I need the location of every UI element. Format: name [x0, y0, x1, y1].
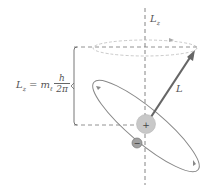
angular-momentum-vector [149, 56, 191, 120]
vector-label-text: L [176, 83, 183, 94]
equation-lhs-main: L [16, 79, 23, 90]
z-axis-label-main: L [150, 13, 157, 24]
equation-lhs-sub: z [23, 85, 26, 92]
z-axis-label: Lz [150, 13, 160, 26]
equation-coef: m [41, 79, 50, 90]
orbit-direction-arrow-icon [96, 86, 101, 90]
vector-label: L [176, 83, 183, 94]
angular-momentum-diagram: + − [0, 0, 212, 193]
equation-numerator: h [54, 73, 70, 84]
equation-fraction: h 2π [54, 73, 70, 95]
equation-equals: = [29, 79, 37, 90]
lz-bracket [74, 47, 77, 125]
z-axis-label-sub: z [157, 19, 160, 26]
nucleus-sign: + [142, 120, 150, 130]
electron-sign: − [134, 139, 141, 148]
equation-coef-sub: ℓ [50, 85, 53, 92]
equation-denominator: 2π [54, 84, 70, 95]
equation-lhs: Lz = mℓ [16, 79, 53, 92]
orbit-direction-arrow-icon-2 [193, 160, 196, 166]
